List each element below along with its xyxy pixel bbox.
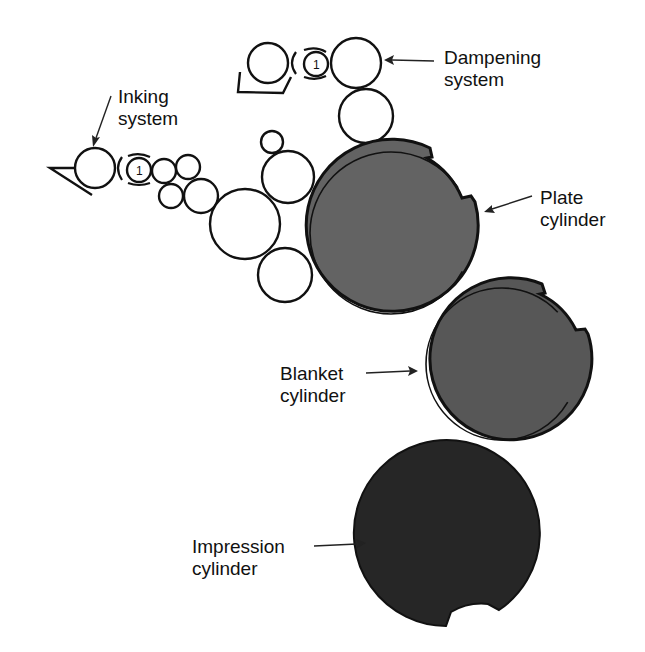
ink-distributor-roller	[152, 159, 176, 183]
inking-system-label: Inking system	[118, 86, 178, 130]
ink-oscillator-roller	[210, 189, 280, 259]
plate-label-line2: cylinder	[540, 209, 605, 231]
dampening-ductor-mark: 1	[313, 58, 320, 72]
inking-arrow	[96, 96, 111, 138]
ink-distributor-roller	[159, 184, 183, 208]
inking-label-line1: Inking	[118, 86, 178, 108]
blanket-cylinder	[426, 278, 592, 440]
inking-system: 1	[50, 131, 314, 302]
ink-rider-roller	[261, 131, 283, 153]
blanket-label-line1: Blanket	[280, 363, 345, 385]
dampening-arrow	[392, 60, 434, 61]
ink-form-roller	[258, 248, 312, 302]
inking-label-line2: system	[118, 108, 178, 130]
ink-ductor-travel-mark	[118, 157, 122, 180]
blanket-arrow	[366, 371, 410, 373]
printing-press-diagram: 1 1	[0, 0, 645, 652]
plate-label-line1: Plate	[540, 187, 605, 209]
dampening-form-roller	[339, 89, 393, 143]
impression-cylinder-body	[354, 440, 540, 626]
blanket-label-line2: cylinder	[280, 385, 345, 407]
impression-cylinder-label: Impression cylinder	[192, 536, 285, 580]
plate-arrow	[492, 196, 532, 209]
dampening-system: 1	[238, 38, 393, 143]
blanket-cylinder-body	[430, 278, 592, 440]
plate-cylinder	[306, 139, 478, 314]
ink-ductor-travel-mark	[128, 154, 150, 157]
impression-label-line1: Impression	[192, 536, 285, 558]
impression-arrow	[314, 544, 357, 546]
ink-ductor-travel-mark	[128, 183, 150, 185]
blanket-cylinder-label: Blanket cylinder	[280, 363, 345, 407]
dampening-system-label: Dampening system	[444, 47, 541, 91]
dampening-fountain-roller	[248, 43, 288, 83]
ink-ductor-mark: 1	[136, 164, 143, 178]
impression-cylinder	[354, 440, 540, 626]
ink-distributor-roller	[176, 155, 200, 179]
dampening-label-line1: Dampening	[444, 47, 541, 69]
plate-cylinder-label: Plate cylinder	[540, 187, 605, 231]
dampening-label-line2: system	[444, 69, 541, 91]
impression-label-line2: cylinder	[192, 558, 285, 580]
dampening-oscillator-roller	[331, 38, 381, 88]
dampening-ductor-travel-mark	[292, 52, 296, 74]
ink-form-roller	[262, 151, 314, 203]
ink-fountain-roller	[75, 148, 115, 188]
